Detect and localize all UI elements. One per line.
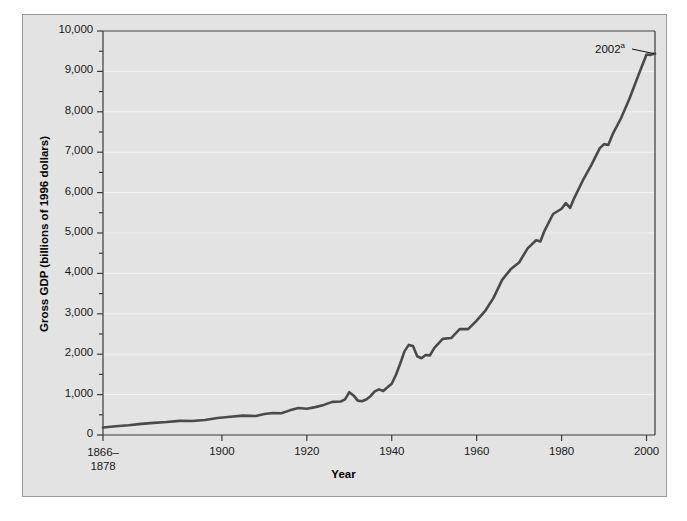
x-tick-label: 1940 <box>352 445 432 457</box>
x-axis-title: Year <box>0 468 687 480</box>
y-tick-label: 5,000 <box>65 225 93 237</box>
x-tick-marks <box>103 435 647 441</box>
y-tick-label: 10,000 <box>58 23 93 35</box>
gridlines-group <box>103 31 655 435</box>
y-tick-label: 0 <box>87 427 93 439</box>
y-tick-marks <box>97 31 103 435</box>
annotation-leader-line <box>632 49 654 54</box>
gdp-line-chart <box>0 0 687 521</box>
y-tick-label: 6,000 <box>65 185 93 197</box>
y-axis-title: Gross GDP (billions of 1996 dollars) <box>38 104 50 364</box>
gdp-series-line <box>103 54 655 428</box>
y-tick-label: 7,000 <box>65 144 93 156</box>
x-tick-label: 1980 <box>522 445 602 457</box>
x-tick-label: 1960 <box>437 445 517 457</box>
annotation-superscript: a <box>621 41 625 50</box>
x-tick-label: 1900 <box>182 445 262 457</box>
series-end-annotation: 2002a <box>595 41 625 55</box>
y-tick-label: 4,000 <box>65 265 93 277</box>
y-tick-label: 2,000 <box>65 346 93 358</box>
y-tick-label: 9,000 <box>65 63 93 75</box>
y-tick-label: 8,000 <box>65 104 93 116</box>
annotation-label: 2002 <box>595 43 621 55</box>
figure-page: 01,0002,0003,0004,0005,0006,0007,0008,00… <box>0 0 687 521</box>
y-tick-label: 3,000 <box>65 306 93 318</box>
x-tick-label: 1920 <box>267 445 347 457</box>
y-tick-label: 1,000 <box>65 387 93 399</box>
x-tick-label: 2000 <box>607 445 687 457</box>
